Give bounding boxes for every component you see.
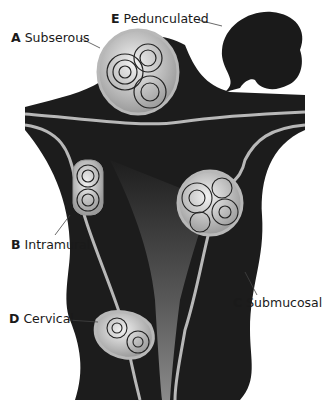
label-subserous: ASubserous (11, 31, 90, 45)
label-letter: A (11, 30, 21, 45)
subserous-fibroid (98, 30, 178, 114)
uterus-illustration (0, 0, 323, 403)
label-text: Submucosal (246, 295, 322, 310)
label-letter: B (11, 237, 21, 252)
label-letter: D (9, 311, 19, 326)
label-pedunculated: EPedunculated (111, 12, 209, 26)
pedunculated-fibroid (222, 12, 303, 92)
label-text: Subserous (25, 30, 90, 45)
leader-line-intramural (55, 215, 70, 235)
submucosal-fibroid (178, 171, 242, 235)
label-submucosal: CSubmucosal (233, 296, 322, 310)
label-text: Cervical (23, 311, 73, 326)
label-cervical: DCervical (9, 312, 74, 326)
label-text: Pedunculated (124, 11, 209, 26)
label-text: Intramural (25, 237, 91, 252)
label-letter: E (111, 11, 120, 26)
label-letter: C (233, 295, 242, 310)
fibroid-diagram: ASubserous EPedunculated BIntramural CSu… (0, 0, 323, 403)
intramural-fibroid (73, 160, 103, 215)
label-intramural: BIntramural (11, 238, 90, 252)
